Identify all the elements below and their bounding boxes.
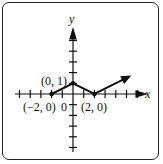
- origin-label: 0: [61, 101, 67, 113]
- point-label-neg2-0: (−2, 0): [23, 101, 56, 113]
- point-label-0-1: (0, 1): [41, 75, 67, 87]
- graph-plot: [0, 0, 163, 164]
- point-label-2-0: (2, 0): [81, 101, 107, 113]
- y-axis-label: y: [69, 13, 74, 25]
- x-axis-label: x: [145, 88, 150, 100]
